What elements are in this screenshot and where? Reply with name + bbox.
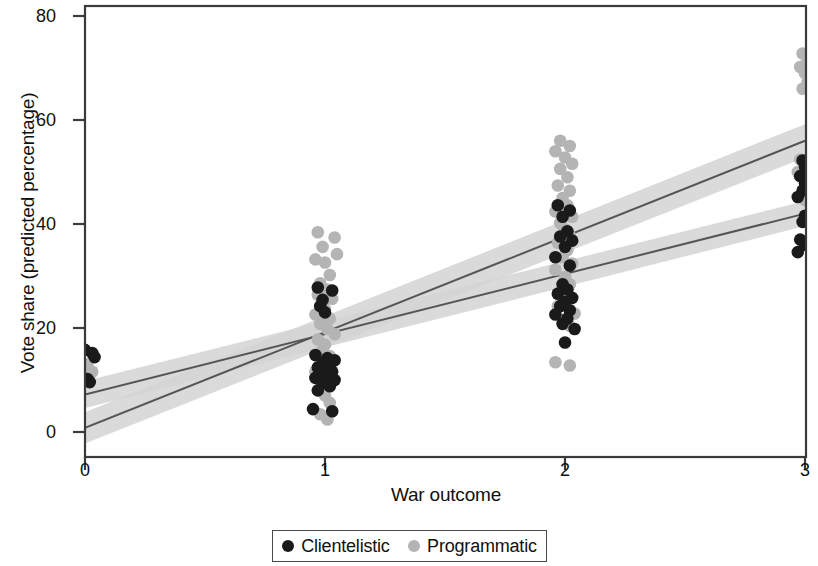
data-point: [552, 199, 565, 212]
plot-canvas: [0, 0, 818, 566]
x-tick-label: 0: [80, 460, 90, 481]
data-point: [316, 241, 329, 254]
data-point: [792, 191, 805, 204]
data-point: [559, 336, 572, 349]
data-point: [326, 405, 339, 418]
data-point: [324, 380, 337, 393]
scatter-plot-figure: 80 60 40 20 0 0 1 2 3 Vote share (predic…: [0, 0, 818, 566]
x-axis-label: War outcome: [85, 484, 807, 506]
data-point: [552, 179, 565, 192]
legend-item-programmatic: Programmatic: [408, 536, 537, 557]
legend-marker-icon: [282, 540, 294, 552]
data-point: [88, 351, 101, 364]
data-point: [564, 359, 577, 372]
data-point: [566, 157, 579, 170]
data-point: [568, 323, 581, 336]
data-point: [319, 306, 332, 319]
data-point: [564, 140, 577, 153]
data-point: [312, 281, 325, 294]
data-point: [792, 246, 805, 259]
data-point: [556, 318, 569, 331]
data-point: [549, 356, 562, 369]
chart-legend: Clientelistic Programmatic: [272, 530, 547, 562]
data-point: [312, 384, 325, 397]
data-point: [549, 251, 562, 264]
x-tick-label: 2: [560, 460, 570, 481]
data-point: [324, 269, 337, 282]
data-point: [307, 403, 320, 416]
legend-marker-icon: [408, 540, 420, 552]
x-tick-label: 3: [800, 460, 810, 481]
y-tick-label: 80: [12, 6, 56, 27]
legend-item-clientelistic: Clientelistic: [282, 536, 389, 557]
data-point: [328, 231, 341, 244]
data-point: [564, 259, 577, 272]
legend-label: Clientelistic: [301, 536, 389, 557]
data-point: [559, 241, 572, 254]
x-tick-label: 1: [320, 460, 330, 481]
data-point: [312, 226, 325, 239]
data-point: [326, 284, 339, 297]
data-point: [561, 171, 574, 184]
data-point: [331, 248, 344, 261]
data-point: [328, 328, 341, 341]
regression-lines: [85, 141, 805, 428]
y-axis-label: Vote share (predicted percentage): [17, 53, 39, 413]
data-point: [319, 256, 332, 269]
legend-label: Programmatic: [427, 536, 537, 557]
data-point: [556, 210, 569, 223]
y-tick-label: 0: [12, 422, 56, 443]
